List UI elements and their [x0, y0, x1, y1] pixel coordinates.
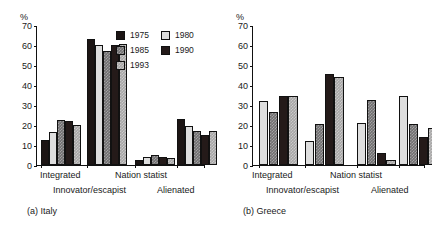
x-category-label-nation-statist: Nation statist — [330, 170, 382, 180]
x-axis-tick — [204, 165, 205, 168]
bar — [49, 132, 57, 165]
y-axis-tick-label: 10 — [226, 141, 248, 151]
bar — [259, 101, 268, 165]
y-axis-tick-label: 50 — [10, 61, 32, 71]
bar — [87, 39, 95, 165]
y-axis-tick — [250, 86, 253, 87]
bar — [193, 131, 201, 165]
legend-swatch-1993 — [116, 61, 125, 70]
y-axis-tick — [250, 66, 253, 67]
legend-item-1985[interactable]: 1985 — [116, 45, 149, 55]
bar — [419, 137, 428, 165]
bar — [279, 96, 288, 165]
x-axis-tick — [305, 165, 306, 168]
y-axis-tick — [250, 126, 253, 127]
legend-swatch-1990 — [161, 46, 170, 55]
figure-root: % 010203040506070 1975 1980 1985 1990 19… — [0, 0, 432, 228]
y-axis-tick — [34, 46, 37, 47]
y-axis-tick — [34, 86, 37, 87]
bar — [177, 119, 185, 165]
legend-label-1990: 1990 — [175, 45, 194, 55]
bar — [143, 157, 151, 165]
y-axis-tick — [34, 26, 37, 27]
y-axis-tick — [34, 166, 37, 167]
legend-italy: 1975 1980 1985 1990 1993 — [116, 30, 194, 70]
bar — [185, 126, 193, 165]
legend-swatch-1975 — [116, 31, 125, 40]
x-axis-tick — [41, 165, 42, 168]
bar — [65, 121, 73, 165]
x-category-label-integrated: Integrated — [252, 170, 293, 180]
y-axis-tick — [34, 126, 37, 127]
y-axis-tick — [250, 26, 253, 27]
chart-panel-greece: % 010203040506070 1975 1980 1985 1990 — [216, 0, 432, 228]
x-axis-tick — [259, 165, 260, 168]
chart-panel-italy: % 010203040506070 1975 1980 1985 1990 19… — [0, 0, 216, 228]
x-axis-tick — [177, 165, 178, 168]
y-axis-tick-label: 40 — [10, 81, 32, 91]
bar — [57, 120, 65, 165]
bar — [269, 112, 278, 165]
bar — [135, 160, 143, 165]
x-axis-tick — [87, 165, 88, 168]
legend-label-1993: 1993 — [130, 60, 149, 70]
bar — [41, 140, 49, 165]
bar — [428, 128, 432, 165]
y-axis-tick-label: 0 — [10, 161, 32, 171]
y-axis-tick-label: 70 — [226, 21, 248, 31]
bar — [367, 100, 376, 165]
x-axis-tick — [135, 165, 136, 168]
panel-caption-italy: (a) Italy — [27, 206, 57, 216]
y-axis-tick — [250, 166, 253, 167]
y-axis-tick — [34, 66, 37, 67]
y-axis-tick — [250, 46, 253, 47]
y-axis-tick-label: 0 — [226, 161, 248, 171]
y-axis-tick — [250, 106, 253, 107]
y-axis-tick-label: 20 — [226, 121, 248, 131]
x-category-label-innovator-escapist: Innovator/escapist — [53, 185, 126, 195]
y-axis-tick-label: 30 — [226, 101, 248, 111]
x-category-label-innovator-escapist: Innovator/escapist — [266, 185, 339, 195]
bar — [167, 158, 175, 165]
y-axis-tick-label: 10 — [10, 141, 32, 151]
y-axis-tick-label: 50 — [226, 61, 248, 71]
y-axis-tick — [34, 146, 37, 147]
y-axis-tick-label: 40 — [226, 81, 248, 91]
legend-item-1990[interactable]: 1990 — [161, 45, 194, 55]
x-axis-tick — [424, 165, 425, 168]
x-axis-tick — [357, 165, 358, 168]
x-category-label-alienated: Alienated — [371, 185, 409, 195]
bar — [325, 74, 334, 165]
y-axis-tick-label: 30 — [10, 101, 32, 111]
legend-swatch-1985 — [116, 46, 125, 55]
x-category-label-alienated: Alienated — [157, 185, 195, 195]
legend-label-1980: 1980 — [175, 30, 194, 40]
bar — [95, 45, 103, 165]
y-axis-tick-label: 20 — [10, 121, 32, 131]
legend-label-1985: 1985 — [130, 45, 149, 55]
bar — [386, 160, 395, 165]
legend-label-1975: 1975 — [130, 30, 149, 40]
legend-item-1980[interactable]: 1980 — [161, 30, 194, 40]
bar — [288, 96, 297, 165]
y-axis-tick — [250, 146, 253, 147]
bar — [73, 125, 81, 165]
y-axis-tick-label: 60 — [10, 41, 32, 51]
legend-swatch-1980 — [161, 31, 170, 40]
bar — [334, 77, 343, 165]
panel-caption-greece: (b) Greece — [243, 206, 286, 216]
bar — [305, 141, 314, 165]
bar — [103, 51, 111, 165]
legend-item-1993[interactable]: 1993 — [116, 60, 149, 70]
bar — [151, 155, 159, 165]
y-axis-tick-label: 60 — [226, 41, 248, 51]
x-category-label-integrated: Integrated — [40, 170, 81, 180]
y-axis-tick-label: 70 — [10, 21, 32, 31]
bar — [315, 124, 324, 165]
legend-item-1975[interactable]: 1975 — [116, 30, 149, 40]
x-axis-tick — [399, 165, 400, 168]
y-axis-tick — [34, 106, 37, 107]
bar — [159, 157, 167, 165]
x-category-label-nation-statist: Nation statist — [115, 170, 167, 180]
bar — [357, 123, 366, 165]
